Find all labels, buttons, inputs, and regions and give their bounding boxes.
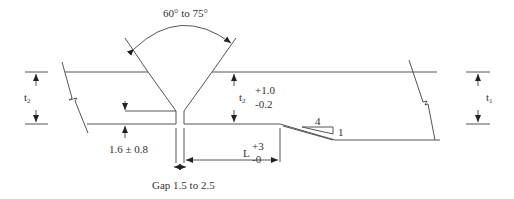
t2-tolerance-plus: +1.0 xyxy=(255,85,275,96)
t2-tolerance-minus: -0.2 xyxy=(255,99,272,110)
angle-label: 60° to 75° xyxy=(163,8,208,19)
L-label: L xyxy=(243,148,250,159)
t2-left-sub: 2 xyxy=(27,97,31,105)
t1-sub: 1 xyxy=(489,97,493,105)
right-plate xyxy=(184,60,440,140)
t2-mid-label: t2 xyxy=(239,92,246,105)
gap-label: Gap 1.5 to 2.5 xyxy=(152,180,215,191)
left-plate xyxy=(62,62,176,133)
t2-left-label: t2 xyxy=(24,92,31,105)
t1-right-label: t1 xyxy=(486,92,493,105)
L-tolerance-minus: -0 xyxy=(252,154,261,165)
angle-arc xyxy=(134,25,231,49)
bevel-extension-right xyxy=(212,38,236,72)
slope-run-label: 4 xyxy=(315,116,321,127)
t2-mid-sub: 2 xyxy=(242,97,246,105)
slope-rise-label: 1 xyxy=(338,127,344,138)
bevel-extension-left xyxy=(125,38,148,72)
L-tolerance-plus: +3 xyxy=(252,141,264,152)
root-face-label: 1.6 ± 0.8 xyxy=(109,144,148,155)
